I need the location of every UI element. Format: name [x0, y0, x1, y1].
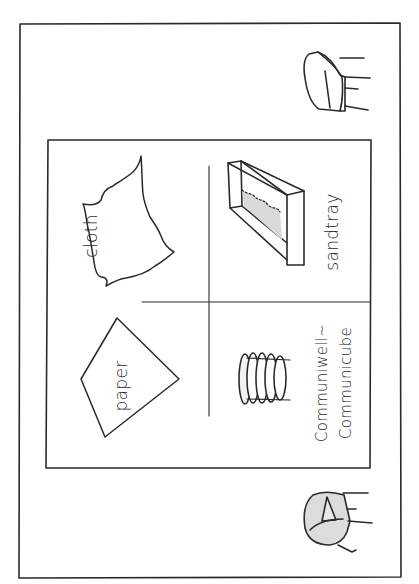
sand-fill [242, 190, 282, 240]
label-cloth: cloth [81, 214, 101, 257]
floor-plan-diagram: cloth sandtray paper Communiwell~ Commun… [0, 0, 419, 584]
diagram-drawing [0, 0, 419, 584]
label-communicube: Communicube [337, 327, 355, 439]
armchair-bottom [304, 492, 372, 552]
armchair-top [304, 52, 370, 111]
communicube-drawing [239, 353, 290, 404]
label-paper: paper [111, 361, 131, 412]
label-sandtray: sandtray [322, 193, 342, 270]
label-communiwell: Communiwell~ [313, 324, 331, 442]
